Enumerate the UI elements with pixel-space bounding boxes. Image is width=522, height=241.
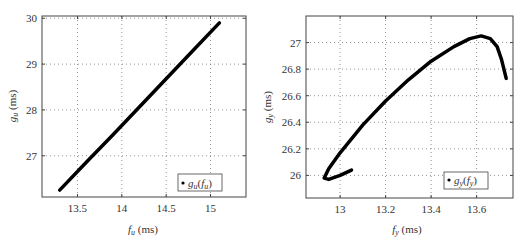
x-tick-label: 13.4 bbox=[421, 203, 441, 215]
chart-right: 1313.213.413.6 2626.226.426.626.827 gy(f… bbox=[261, 0, 522, 241]
legend: gu(fu) bbox=[178, 174, 222, 191]
gridlines bbox=[42, 16, 246, 197]
plot-frame bbox=[306, 16, 513, 198]
x-tick-label: 13 bbox=[335, 203, 347, 215]
series-line bbox=[60, 23, 220, 190]
legend-label: gy(fy) bbox=[454, 174, 477, 188]
legend-marker bbox=[181, 181, 184, 184]
y-tick-label: 26.6 bbox=[282, 90, 302, 102]
x-axis-label: fy (ms) bbox=[392, 223, 422, 237]
gridlines bbox=[306, 16, 513, 198]
y-tick-label: 26.2 bbox=[282, 143, 301, 155]
y-ticks: 27282930 bbox=[26, 12, 246, 161]
x-tick-label: 15 bbox=[205, 202, 217, 214]
y-axis-label: gu (ms) bbox=[6, 89, 20, 122]
y-tick-label: 26.8 bbox=[282, 63, 302, 75]
x-axis-label: fu (ms) bbox=[128, 223, 158, 237]
legend-label: gu(fu) bbox=[188, 177, 212, 191]
x-tick-label: 13.6 bbox=[467, 203, 487, 215]
x-tick-label: 14 bbox=[116, 202, 128, 214]
legend-marker bbox=[447, 178, 450, 181]
y-tick-label: 26 bbox=[290, 169, 302, 181]
y-tick-label: 26.4 bbox=[282, 116, 302, 128]
x-tick-label: 14.5 bbox=[157, 202, 177, 214]
chart-left: 13.51414.515 27282930 gu(fu) fu (ms) gu … bbox=[0, 0, 261, 241]
series-line bbox=[324, 36, 506, 180]
y-tick-label: 28 bbox=[26, 104, 38, 116]
y-tick-label: 30 bbox=[26, 12, 38, 24]
x-tick-label: 13.2 bbox=[376, 203, 395, 215]
legend: gy(fy) bbox=[444, 172, 488, 189]
plot-frame bbox=[42, 16, 246, 197]
x-tick-label: 13.5 bbox=[68, 202, 88, 214]
y-tick-label: 27 bbox=[290, 37, 302, 49]
y-axis-label: gy (ms) bbox=[261, 91, 275, 123]
y-tick-label: 27 bbox=[26, 150, 38, 162]
y-tick-label: 29 bbox=[26, 58, 38, 70]
y-ticks: 2626.226.426.626.827 bbox=[282, 37, 513, 182]
